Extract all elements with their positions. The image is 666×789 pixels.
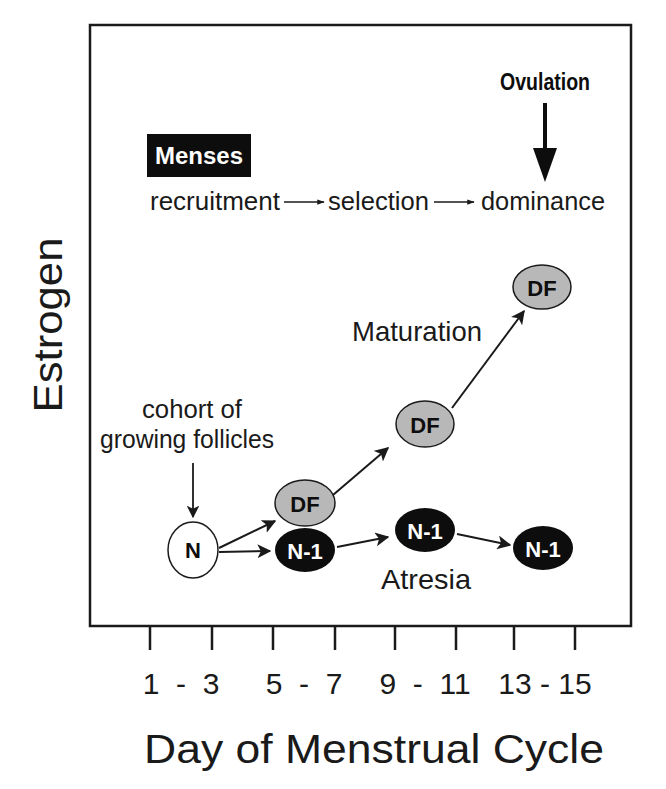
cohort-label-line2: growing follicles	[100, 425, 274, 453]
arrow-df1-to-df2	[333, 448, 388, 495]
follicle-node-df-1: DF	[275, 480, 335, 526]
ovulation-arrow-icon	[533, 103, 557, 182]
node-label: DF	[290, 492, 319, 517]
follicle-node-n: N	[168, 522, 218, 578]
cohort-label-line1: cohort of	[142, 395, 242, 423]
follicle-node-df-3: DF	[513, 265, 571, 309]
x-tick-label: 13 - 15	[498, 667, 591, 700]
x-tick-label: 1 - 3	[143, 667, 220, 700]
menses-label: Menses	[155, 143, 243, 169]
stage-recruitment: recruitment	[150, 187, 280, 215]
x-tick-label: 9 - 11	[379, 667, 470, 700]
follicle-node-n1-c: N-1	[513, 526, 573, 570]
node-label: N-1	[525, 537, 560, 562]
menses-badge: Menses	[147, 134, 251, 177]
follicle-node-n1-a: N-1	[275, 528, 335, 572]
arrow-n-to-df1	[219, 521, 275, 548]
arrow-n-to-n1a	[219, 551, 270, 552]
node-label: DF	[410, 413, 439, 438]
x-tick-label: 5 - 7	[266, 667, 343, 700]
stage-dominance: dominance	[481, 187, 605, 215]
node-label: DF	[527, 276, 556, 301]
ovulation-label: Ovulation	[500, 69, 590, 95]
x-axis-label: Day of Menstrual Cycle	[144, 727, 604, 771]
arrow-n1a-to-n1b	[337, 537, 388, 547]
x-axis-ticks	[150, 627, 575, 650]
x-tick-labels: 1 - 3 5 - 7 9 - 11 13 - 15	[143, 667, 592, 700]
node-label: N-1	[407, 519, 442, 544]
follicle-development-diagram: 1 - 3 5 - 7 9 - 11 13 - 15 Day of Menstr…	[0, 0, 666, 789]
arrow-n1b-to-n1c	[457, 534, 510, 545]
follicle-node-n1-b: N-1	[395, 508, 455, 552]
maturation-label: Maturation	[352, 316, 482, 347]
y-axis-label: Estrogen	[26, 238, 70, 413]
node-label: N	[185, 538, 201, 563]
follicle-node-df-2: DF	[396, 401, 454, 447]
stage-selection: selection	[328, 187, 429, 215]
atresia-label: Atresia	[381, 564, 471, 595]
node-label: N-1	[287, 539, 322, 564]
